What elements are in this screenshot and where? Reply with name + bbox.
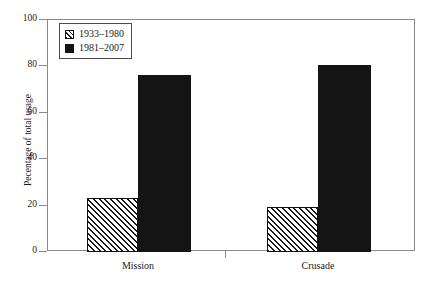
legend-entry-1933-1980: 1933–1980 bbox=[65, 27, 124, 41]
bar-mission-1981-2007 bbox=[138, 75, 191, 253]
hatch-swatch-icon bbox=[65, 30, 74, 39]
x-tick-mark-center bbox=[225, 251, 226, 258]
solid-swatch-icon bbox=[65, 44, 74, 53]
y-tick-mark-0 bbox=[39, 251, 47, 252]
x-tick-label-crusade: Crusade bbox=[266, 260, 370, 272]
bar-crusade-1933-1980 bbox=[267, 207, 318, 252]
legend: 1933–1980 1981–2007 bbox=[59, 23, 132, 59]
legend-label-1933-1980: 1933–1980 bbox=[79, 29, 124, 39]
plot-area: 1933–1980 1981–2007 bbox=[47, 19, 415, 251]
x-tick-label-mission: Mission bbox=[86, 260, 190, 272]
y-tick-mark-40 bbox=[39, 158, 47, 159]
y-tick-mark-60 bbox=[39, 112, 47, 113]
y-tick-label-100: 100 bbox=[5, 14, 37, 24]
bar-chart-figure: 100 80 60 40 20 0 Pecentage of total usa… bbox=[0, 0, 437, 283]
y-tick-label-0: 0 bbox=[5, 246, 37, 256]
bar-crusade-1981-2007 bbox=[318, 65, 371, 252]
y-tick-mark-20 bbox=[39, 205, 47, 206]
legend-label-1981-2007: 1981–2007 bbox=[79, 43, 124, 53]
y-tick-mark-80 bbox=[39, 65, 47, 66]
legend-entry-1981-2007: 1981–2007 bbox=[65, 41, 124, 55]
y-axis-title: Pecentage of total usage bbox=[23, 65, 33, 215]
bar-mission-1933-1980 bbox=[87, 198, 138, 253]
y-tick-mark-100 bbox=[39, 19, 47, 20]
